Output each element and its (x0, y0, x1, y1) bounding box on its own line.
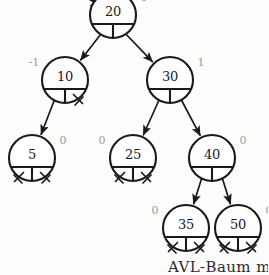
caption-region: AVL-Baum mit (0, 258, 268, 275)
balance-factor-label: 0 (60, 134, 67, 147)
tree-svg: 20110-130150250400350500 (0, 0, 268, 275)
node-key: 35 (178, 217, 194, 232)
balance-factor-label: 1 (198, 56, 205, 69)
tree-node-30: 301 (147, 56, 205, 103)
node-key: 5 (28, 147, 36, 162)
tree-node-50: 500 (215, 204, 268, 253)
tree-node-25: 250 (99, 134, 157, 183)
tree-node-10: 10-1 (29, 56, 88, 105)
tree-node-20: 201 (90, 0, 148, 38)
node-key: 30 (162, 69, 178, 84)
tree-node-40: 400 (189, 134, 247, 181)
diagram-caption: AVL-Baum mit (168, 258, 268, 275)
node-key: 50 (230, 217, 246, 232)
tree-nodes: 20110-130150250400350500 (9, 0, 268, 253)
balance-factor-label: 1 (141, 0, 148, 4)
tree-node-5: 50 (9, 134, 67, 183)
balance-factor-label: 0 (99, 134, 106, 147)
balance-factor-label: -1 (29, 56, 40, 69)
tree-node-35: 350 (152, 204, 210, 253)
node-key: 10 (57, 69, 73, 84)
node-key: 20 (105, 4, 121, 19)
node-key: 25 (125, 147, 141, 162)
node-key: 40 (204, 147, 220, 162)
balance-factor-label: 0 (240, 134, 247, 147)
balance-factor-label: 0 (152, 204, 159, 217)
balance-factor-label: 0 (266, 204, 269, 217)
avl-tree-diagram: 20110-130150250400350500 AVL-Baum mit (0, 0, 268, 275)
